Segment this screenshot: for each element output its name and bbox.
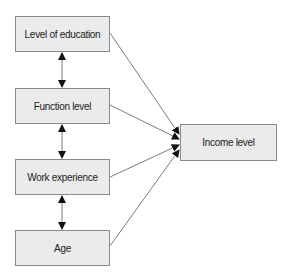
node-age: Age <box>15 230 110 266</box>
node-label: Level of education <box>25 29 101 40</box>
node-income-level: Income level <box>180 124 277 161</box>
node-function-level: Function level <box>15 88 110 124</box>
node-label: Work experience <box>27 172 97 183</box>
edge-education-income <box>110 33 179 134</box>
edge-experience-income <box>110 145 179 177</box>
node-label: Function level <box>34 101 92 112</box>
node-level-of-education: Level of education <box>15 16 110 52</box>
edge-function-income <box>110 105 179 139</box>
node-label: Age <box>54 243 71 254</box>
node-work-experience: Work experience <box>15 159 110 195</box>
edge-age-income <box>110 150 179 246</box>
node-label: Income level <box>202 137 255 148</box>
